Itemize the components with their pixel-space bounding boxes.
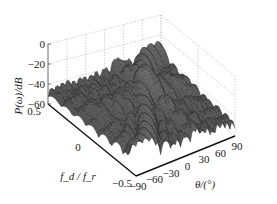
z-tick-label: 0	[40, 38, 46, 50]
x-axis-label: θ/(°)	[195, 178, 216, 191]
z-tick-label: −40	[28, 78, 46, 90]
surface-mesh	[48, 41, 235, 155]
theta-tick-label: −90	[129, 180, 147, 192]
surface-plot: 0−20−40−600.50−0.5−90−60−300306090 P(ω)/…	[0, 0, 277, 204]
theta-tick-label: 60	[215, 147, 227, 159]
z-axis-label: P(ω)/dB	[12, 77, 25, 115]
theta-tick-label: 30	[199, 153, 211, 165]
fd-tick-label: 0	[75, 141, 81, 153]
fd-tick-label: 0.5	[27, 105, 41, 117]
y-axis-label: f_d / f_r	[60, 170, 96, 182]
theta-tick-label: 90	[232, 140, 244, 152]
theta-tick-label: 0	[185, 160, 191, 172]
theta-tick-label: −30	[162, 167, 180, 179]
z-tick-label: −20	[28, 58, 46, 70]
theta-tick-label: −60	[146, 173, 164, 185]
